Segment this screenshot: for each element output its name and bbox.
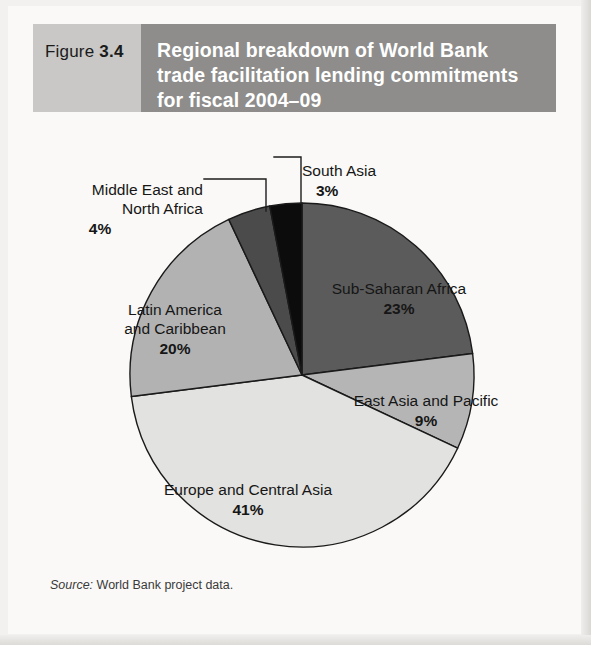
pie-label-europe-central-asia-text: Europe and Central Asia: [164, 481, 332, 498]
pie-label-middle-east-north-africa-text: Middle East and North Africa: [92, 181, 203, 217]
pie-label-south-asia: South Asia 3%: [302, 143, 422, 220]
source-note: Source: World Bank project data.: [50, 578, 233, 592]
pie-label-south-asia-value: 3%: [302, 182, 422, 201]
pie-leader-lines: [204, 157, 301, 211]
source-text: World Bank project data.: [93, 578, 233, 592]
pie-label-east-asia-pacific-value: 9%: [326, 412, 526, 431]
pie-label-south-asia-text: South Asia: [302, 162, 376, 179]
pie-chart: South Asia 3% Middle East and North Afri…: [33, 118, 556, 578]
pie-label-middle-east-north-africa-value: 4%: [43, 220, 203, 239]
pie-label-latin-america-caribbean: Latin America and Caribbean 20%: [95, 282, 255, 378]
figure-number-value: 3.4: [99, 42, 123, 61]
scan-edge-right: [581, 0, 591, 645]
pie-label-europe-central-asia: Europe and Central Asia 41%: [143, 462, 353, 539]
source-label: Source:: [50, 578, 93, 592]
pie-label-sub-saharan-africa-text: Sub-Saharan Africa: [332, 280, 466, 297]
pie-label-east-asia-pacific: East Asia and Pacific 9%: [326, 373, 526, 450]
pie-label-latin-america-caribbean-text: Latin America and Caribbean: [124, 301, 226, 337]
figure-header: Figure 3.4 Regional breakdown of World B…: [33, 24, 556, 112]
pie-label-sub-saharan-africa-value: 23%: [309, 300, 489, 319]
scan-edge-bottom: [0, 635, 591, 645]
figure-number-box: Figure 3.4: [33, 24, 141, 112]
pie-label-sub-saharan-africa: Sub-Saharan Africa 23%: [309, 261, 489, 338]
pie-label-east-asia-pacific-text: East Asia and Pacific: [354, 392, 499, 409]
pie-label-middle-east-north-africa: Middle East and North Africa 4%: [43, 162, 203, 258]
leader-line-middle-east-north-africa: [204, 179, 266, 211]
figure-title-box: Regional breakdown of World Bank trade f…: [141, 24, 556, 112]
leader-line-south-asia: [274, 157, 301, 203]
figure-number-word: Figure: [45, 42, 94, 61]
figure-title: Regional breakdown of World Bank trade f…: [157, 38, 546, 113]
pie-label-latin-america-caribbean-value: 20%: [95, 340, 255, 359]
pie-label-europe-central-asia-value: 41%: [143, 501, 353, 520]
figure-root: Figure 3.4 Regional breakdown of World B…: [0, 0, 591, 645]
figure-number: Figure 3.4: [45, 42, 124, 62]
